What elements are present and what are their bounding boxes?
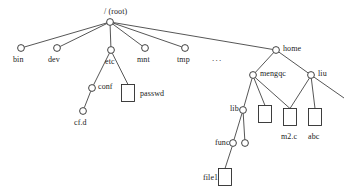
node-label-cfd: cf.d	[74, 119, 87, 127]
tree-node-etc[interactable]	[108, 47, 115, 54]
tree-node-lib[interactable]	[240, 107, 247, 114]
tree-edge-root-to-tmp	[113, 23, 182, 47]
node-label-home: home	[283, 45, 301, 53]
node-label-mengqc: mengqc	[260, 70, 286, 78]
tree-edge-mengqc-to-lib	[244, 78, 252, 106]
tree-node-cfd[interactable]	[80, 108, 87, 115]
tree-node-mnt[interactable]	[142, 45, 149, 52]
filesystem-tree-diagram: / (root)bindevetcmnttmphomeconfpasswdcf.…	[0, 0, 344, 196]
tree-node-liu[interactable]	[308, 72, 315, 79]
node-label-root: / (root)	[104, 8, 127, 16]
node-label-file1: file1	[203, 174, 218, 182]
node-label-conf: conf	[98, 83, 113, 91]
ellipsis-marker: ...	[212, 54, 222, 63]
tree-node-tmp[interactable]	[182, 45, 189, 52]
node-label-mnt: mnt	[137, 56, 150, 64]
node-label-liu: liu	[318, 70, 327, 78]
node-label-func: func	[215, 139, 230, 147]
tree-node-root[interactable]	[107, 19, 114, 26]
tree-node-mengqc[interactable]	[250, 72, 257, 79]
tree-edge-conf-to-cfd	[84, 91, 91, 108]
tree-node-box_m1[interactable]	[259, 106, 272, 123]
tree-edge-root-to-dev	[60, 23, 107, 46]
tree-edge-liu-to-abc	[311, 78, 315, 108]
tree-node-bin[interactable]	[18, 45, 25, 52]
tree-node-home[interactable]	[273, 47, 280, 54]
node-label-tmp: tmp	[177, 56, 190, 64]
tree-edge-mengqc-to-box_m1	[254, 78, 265, 105]
tree-node-conf[interactable]	[89, 85, 96, 92]
node-label-passwd: passwd	[140, 90, 164, 98]
tree-node-unnamed[interactable]	[242, 140, 249, 147]
nodes-layer	[18, 19, 322, 186]
tree-edge-lib-to-func	[234, 113, 242, 139]
node-label-dev: dev	[48, 56, 60, 64]
tree-edge-root-to-etc	[110, 25, 111, 46]
tree-edge-mengqc-to-m2c	[255, 78, 290, 109]
tree-node-abc[interactable]	[309, 109, 322, 126]
node-label-m2c: m2.c	[281, 133, 297, 141]
tree-graphics	[0, 0, 344, 196]
tree-edge-liu-to-m2c	[290, 78, 309, 108]
tree-node-func[interactable]	[230, 140, 237, 147]
tree-node-m2c[interactable]	[284, 109, 297, 126]
tree-node-dev[interactable]	[54, 45, 61, 52]
node-label-lib: lib	[230, 105, 239, 113]
tree-edge-liu-continuation	[314, 77, 344, 98]
tree-edge-func-to-file1	[225, 146, 232, 168]
tree-edge-lib-to-unnamed	[243, 113, 245, 139]
tree-node-passwd[interactable]	[122, 85, 135, 102]
tree-edge-root-to-mnt	[113, 24, 143, 46]
tree-edge-root-to-home	[113, 23, 272, 50]
node-label-bin: bin	[13, 56, 24, 64]
node-label-etc: etc	[105, 58, 115, 66]
node-label-abc: abc	[308, 133, 319, 141]
tree-node-file1[interactable]	[219, 169, 232, 186]
